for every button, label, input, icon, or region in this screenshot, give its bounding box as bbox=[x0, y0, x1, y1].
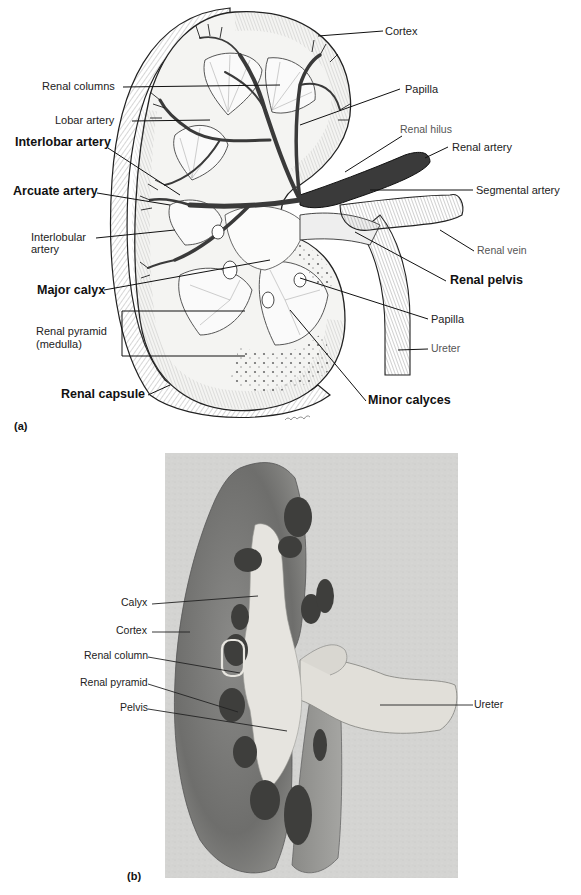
label-renal-capsule: Renal capsule bbox=[61, 388, 145, 402]
label-ureter-photo: Ureter bbox=[474, 699, 503, 711]
label-cortex: Cortex bbox=[385, 25, 417, 37]
label-pelvis: Pelvis bbox=[120, 702, 148, 714]
label-renal-column: Renal column bbox=[84, 650, 148, 662]
label-interlobular-artery-2: artery bbox=[31, 243, 59, 255]
label-calyx: Calyx bbox=[121, 597, 147, 609]
renal-vein-shape bbox=[340, 195, 463, 231]
label-papilla-bottom: Papilla bbox=[431, 313, 464, 325]
label-segmental-artery: Segmental artery bbox=[476, 184, 560, 196]
label-papilla-top: Papilla bbox=[405, 83, 438, 95]
label-renal-hilus: Renal hilus bbox=[400, 124, 452, 136]
artist-signature bbox=[285, 416, 310, 420]
label-minor-calyces: Minor calyces bbox=[368, 394, 451, 408]
label-renal-pyramid-photo: Renal pyramid bbox=[80, 677, 148, 689]
panel-a-illustration: Renal columns Lobar artery Interlobar ar… bbox=[0, 0, 581, 440]
label-renal-pyramid-1: Renal pyramid bbox=[36, 325, 107, 337]
label-major-calyx: Major calyx bbox=[37, 284, 105, 298]
label-lobar-artery: Lobar artery bbox=[55, 114, 114, 126]
label-interlobular-artery-1: Interlobular bbox=[31, 231, 86, 243]
label-cortex-photo: Cortex bbox=[116, 625, 147, 637]
panel-b-tag: (b) bbox=[127, 870, 141, 882]
label-renal-vein: Renal vein bbox=[477, 245, 527, 257]
kidney-photograph bbox=[0, 440, 581, 895]
label-renal-artery: Renal artery bbox=[452, 141, 512, 153]
label-renal-pelvis: Renal pelvis bbox=[450, 274, 523, 288]
label-arcuate-artery: Arcuate artery bbox=[13, 185, 98, 199]
label-ureter: Ureter bbox=[431, 343, 460, 355]
kidney-illustration bbox=[0, 0, 581, 440]
label-renal-pyramid-2: (medulla) bbox=[36, 338, 82, 350]
label-interlobar-artery: Interlobar artery bbox=[15, 136, 111, 150]
label-renal-columns: Renal columns bbox=[42, 80, 115, 92]
panel-a-tag: (a) bbox=[14, 420, 27, 432]
panel-b-photograph: Calyx Cortex Renal column Renal pyramid … bbox=[0, 440, 581, 895]
